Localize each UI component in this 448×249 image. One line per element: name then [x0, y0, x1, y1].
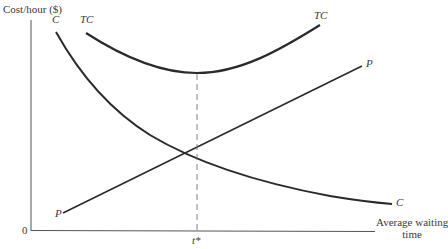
x-axis-label-line2: time: [402, 228, 422, 240]
x-axis-label: Average waiting time: [376, 216, 448, 240]
curve-tc-label-start: TC: [80, 13, 93, 25]
tstar-label: t*: [192, 234, 201, 246]
curve-tc-label-end: TC: [314, 9, 327, 21]
line-p-label-end: P: [366, 57, 373, 69]
curve-tc: [86, 25, 320, 73]
curve-c-label-end: C: [396, 196, 403, 208]
line-p-label-start: P: [55, 207, 62, 219]
line-p: [63, 66, 362, 213]
curve-c: [56, 32, 392, 204]
origin-label: 0: [22, 224, 28, 236]
x-axis: [31, 231, 375, 232]
x-axis-label-line1: Average waiting: [376, 216, 448, 228]
curve-c-label-start: C: [52, 13, 59, 25]
